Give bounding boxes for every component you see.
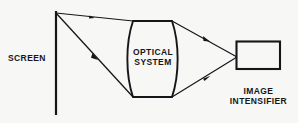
- upper-incoming-ray: [56, 13, 133, 21]
- image-intensifier-box: [237, 42, 281, 70]
- optical-system-label: OPTICAL SYSTEM: [133, 47, 173, 67]
- optical-system-label-line2: SYSTEM: [133, 57, 173, 67]
- upper-outgoing-ray-arrowhead: [203, 36, 210, 42]
- figure-canvas: SCREEN OPTICAL SYSTEM IMAGE INTENSIFIER: [0, 0, 298, 123]
- lower-incoming-ray: [56, 13, 133, 97]
- image-intensifier-label-line1: IMAGE: [244, 86, 274, 96]
- image-intensifier-label: IMAGE INTENSIFIER: [219, 86, 298, 106]
- screen-label: SCREEN: [8, 53, 46, 63]
- optical-system-label-line1: OPTICAL: [133, 47, 173, 57]
- image-intensifier-label-line2: INTENSIFIER: [219, 96, 298, 106]
